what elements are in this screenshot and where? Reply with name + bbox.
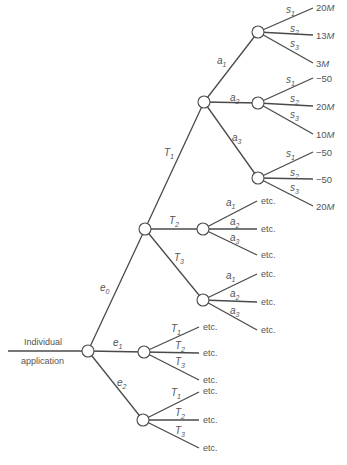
outcome-a1-s3: 3M	[316, 58, 329, 69]
node-e1	[138, 346, 150, 358]
etc-T2-a1: etc.	[261, 196, 276, 206]
label-e1-T3: T3	[175, 356, 185, 369]
label-e2-T2: T2	[175, 407, 185, 420]
root-node	[82, 345, 94, 357]
label-a2-s1: s1	[286, 74, 295, 87]
edge-a3	[204, 102, 258, 178]
label-e2: e2	[117, 377, 127, 390]
label-a3-s3: s3	[290, 182, 299, 195]
node-e0	[139, 223, 151, 235]
edge-e1	[88, 351, 144, 352]
edge-a2-s3	[258, 103, 313, 134]
outcome-a3-s2: −50	[316, 174, 332, 185]
node-T2	[197, 223, 209, 235]
edge-T1	[145, 102, 204, 229]
edge-e1-T3	[144, 352, 199, 380]
decision-tree-diagram: Individual application e0 e1	[0, 0, 347, 465]
etc-e1-T3: etc.	[203, 375, 218, 385]
label-T3-a1: a1	[226, 270, 236, 283]
edge-T3-a2	[203, 300, 257, 302]
label-a1-s1: s1	[286, 4, 295, 17]
etc-T2-a2: etc.	[261, 224, 276, 234]
edge-a2-s2	[258, 103, 313, 106]
label-a1-s3: s3	[290, 38, 299, 51]
node-e2	[137, 414, 149, 426]
label-T1: T1	[164, 147, 174, 160]
root-label-line1: Individual	[24, 337, 62, 347]
outcome-a3-s1: −50	[316, 147, 332, 158]
etc-e2-T2: etc.	[203, 415, 218, 425]
label-T3-a2: a2	[230, 288, 240, 301]
label-e1-T1: T1	[171, 323, 181, 336]
edge-a1-s2	[258, 32, 313, 35]
node-a1	[252, 26, 264, 38]
label-T2-a2: a2	[230, 216, 240, 229]
label-a1: a1	[217, 55, 227, 68]
label-T3: T3	[174, 252, 184, 265]
etc-T3-a2: etc.	[261, 297, 276, 307]
node-T3	[197, 294, 209, 306]
etc-T3-a3: etc.	[261, 325, 276, 335]
edge-e0	[88, 229, 145, 351]
edge-e1-T2	[144, 352, 199, 353]
label-e1: e1	[113, 337, 123, 350]
etc-e1-T1: etc.	[203, 322, 218, 332]
label-e2-T1: T1	[171, 387, 181, 400]
node-T1	[198, 96, 210, 108]
edge-e2-T3	[143, 420, 199, 448]
node-a2	[252, 97, 264, 109]
edge-T3	[145, 229, 203, 300]
label-a3-s1: s1	[286, 148, 295, 161]
label-T2: T2	[169, 215, 179, 228]
label-a2-s2: s2	[290, 93, 299, 106]
etc-T2-a3: etc.	[261, 250, 276, 260]
etc-T3-a1: etc.	[261, 269, 276, 279]
etc-e2-T1: etc.	[203, 386, 218, 396]
root-label-line2: application	[21, 356, 64, 366]
edge-a1-s3	[258, 32, 313, 63]
outcome-a1-s2: 13M	[316, 30, 335, 41]
label-e1-T2: T2	[175, 340, 185, 353]
outcome-a3-s3: 20M	[316, 201, 335, 212]
outcome-a2-s1: −50	[316, 73, 332, 84]
edge-a3-s2	[258, 178, 313, 179]
edge-e2	[88, 351, 143, 420]
etc-e1-T2: etc.	[203, 348, 218, 358]
outcome-a1-s1: 20M	[316, 2, 335, 13]
node-a3	[252, 172, 264, 184]
etc-e2-T3: etc.	[203, 443, 218, 453]
label-e0: e0	[100, 282, 110, 295]
outcome-a2-s2: 20M	[316, 101, 335, 112]
outcome-a2-s3: 10M	[316, 129, 335, 140]
label-a2-s3: s3	[290, 109, 299, 122]
label-T2-a1: a1	[226, 197, 236, 210]
